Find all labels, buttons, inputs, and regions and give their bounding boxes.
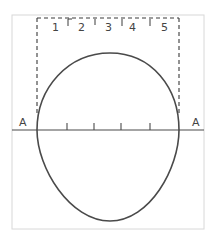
- axis-label-left: A: [19, 116, 27, 129]
- egg-outline: [37, 53, 179, 221]
- section-label-2: 2: [78, 21, 85, 34]
- section-label-3: 3: [105, 21, 112, 34]
- axis-label-right: A: [192, 116, 200, 129]
- section-label-1: 1: [52, 21, 59, 34]
- frame-border: [12, 15, 204, 229]
- section-label-4: 4: [129, 21, 136, 34]
- axis-ticks: [67, 123, 150, 130]
- diagram-canvas: 1 2 3 4 5 A A: [0, 0, 215, 239]
- section-label-5: 5: [161, 21, 168, 34]
